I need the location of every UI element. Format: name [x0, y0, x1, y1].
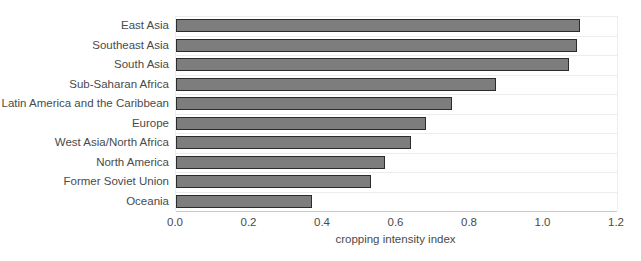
- gridline: [176, 94, 617, 95]
- category-label: Europe: [0, 114, 169, 134]
- bar: [176, 117, 426, 130]
- x-tick-label: 0.0: [167, 216, 183, 228]
- category-label: Latin America and the Caribbean: [0, 94, 169, 114]
- x-tick-label: 0.4: [314, 216, 330, 228]
- gridline: [176, 153, 617, 154]
- category-label: Southeast Asia: [0, 36, 169, 56]
- gridline: [176, 16, 617, 17]
- category-label: Former Soviet Union: [0, 172, 169, 192]
- bar: [176, 19, 580, 32]
- x-tick-label: 0.6: [388, 216, 404, 228]
- x-axis-label: cropping intensity index: [175, 233, 616, 245]
- x-tick-label: 1.2: [608, 216, 624, 228]
- category-label: West Asia/North Africa: [0, 133, 169, 153]
- gridline: [176, 192, 617, 193]
- category-label: Oceania: [0, 192, 169, 212]
- category-label: North America: [0, 153, 169, 173]
- bar: [176, 156, 385, 169]
- bar: [176, 97, 452, 110]
- gridline: [176, 75, 617, 76]
- category-label: South Asia: [0, 55, 169, 75]
- x-tick-label: 0.8: [461, 216, 477, 228]
- gridline: [176, 114, 617, 115]
- bar: [176, 78, 496, 91]
- bar: [176, 58, 569, 71]
- category-label: Sub-Saharan Africa: [0, 75, 169, 95]
- category-label: East Asia: [0, 16, 169, 36]
- bar: [176, 195, 312, 208]
- x-tick-label: 0.2: [241, 216, 257, 228]
- gridline: [176, 55, 617, 56]
- gridline: [176, 36, 617, 37]
- x-tick-label: 1.0: [535, 216, 551, 228]
- bar: [176, 39, 577, 52]
- bar: [176, 175, 371, 188]
- x-axis-line: [176, 211, 617, 212]
- plot-area: [175, 16, 618, 211]
- gridline: [176, 133, 617, 134]
- cropping-intensity-bar-chart: East AsiaSoutheast AsiaSouth AsiaSub-Sah…: [0, 0, 641, 261]
- bar: [176, 136, 411, 149]
- gridline: [176, 172, 617, 173]
